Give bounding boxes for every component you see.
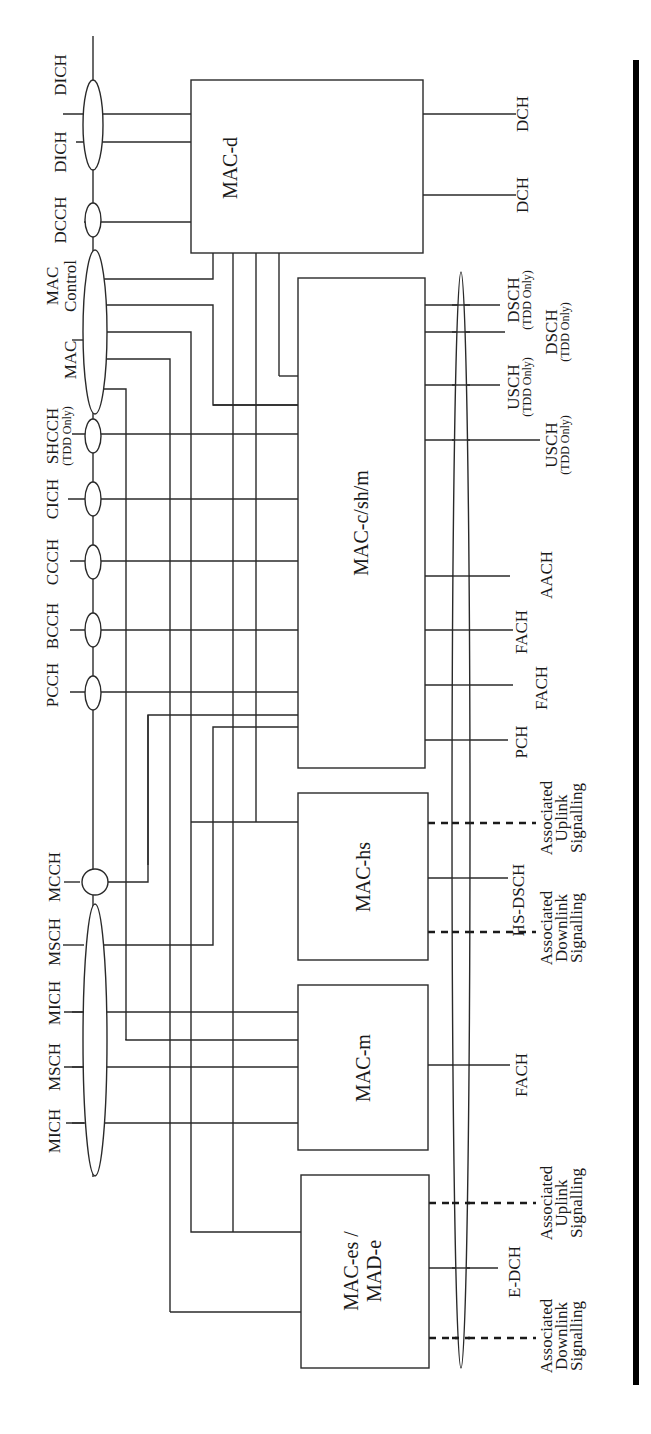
- ccch-label: CCCH: [43, 539, 62, 585]
- mac-m-label: MAC-m: [352, 1034, 374, 1102]
- cich-label: CICH: [43, 479, 62, 520]
- cich-ellipse: [85, 482, 101, 516]
- dich-multiplex-ellipse: [83, 80, 103, 170]
- mac-control-ellipse: [83, 250, 107, 414]
- pch-label: PCH: [512, 725, 531, 758]
- mac-architecture-diagram: MAC-d MAC-c/sh/m MAC-hs MAC-m MAC-es / M…: [0, 0, 651, 1434]
- e-dch-label: E-DCH: [505, 1246, 524, 1298]
- mac-c-label: MAC-c/sh/m: [350, 470, 372, 576]
- mich-msch-ellipse: [83, 904, 107, 1176]
- fach-label: FACH: [512, 1053, 531, 1097]
- aach-label: AACH: [537, 551, 556, 599]
- e-uplink-signalling-label-3: Signalling: [567, 1168, 586, 1238]
- pcch-ellipse: [85, 676, 101, 710]
- mac-d-label: MAC-d: [219, 137, 241, 199]
- logical-channel-labels: DICH DICH DCCH MAC Control MAC SHCCH (TD…: [43, 54, 80, 1153]
- mac-es-label: MAC-es /: [340, 1231, 362, 1311]
- dcch-ellipse: [85, 203, 101, 237]
- msch-label: MSCH: [45, 1043, 64, 1091]
- usch-tdd-only-label: (TDD Only): [558, 415, 572, 475]
- pcch-label: PCCH: [43, 663, 62, 707]
- dcch-label: DCCH: [51, 196, 70, 243]
- mich-label: MICH: [45, 1109, 64, 1153]
- dsch-tdd-only-label: (TDD Only): [520, 270, 534, 330]
- hs-uplink-signalling-label-3: Signalling: [567, 783, 586, 853]
- e-downlink-signalling-label-3: Signalling: [567, 1301, 586, 1371]
- bcch-ellipse: [85, 613, 101, 647]
- mad-e-label: MAD-e: [363, 1240, 385, 1302]
- msch-label: MSCH: [45, 918, 64, 966]
- mcch-circle: [82, 869, 108, 895]
- bcch-label: BCCH: [43, 603, 62, 649]
- dch-label: DCH: [513, 96, 532, 132]
- hs-dsch-label: HS-DSCH: [509, 864, 528, 937]
- mac-label: MAC: [61, 341, 80, 380]
- mcch-label: MCCH: [45, 852, 64, 902]
- hs-downlink-signalling-label-3: Signalling: [567, 893, 586, 963]
- mich-label: MICH: [45, 981, 64, 1025]
- usch-tdd-only-label: (TDD Only): [520, 357, 534, 417]
- shcch-ellipse: [85, 419, 101, 453]
- dsch-tdd-only-label: (TDD Only): [558, 302, 572, 362]
- ccch-ellipse: [85, 545, 101, 579]
- mac-control-sub-label: Control: [61, 260, 80, 312]
- dich-label: DICH: [51, 131, 70, 173]
- dich-label: DICH: [51, 54, 70, 96]
- shcch-tdd-only-label: (TDD Only): [60, 406, 74, 466]
- mac-hs-label: MAC-hs: [352, 842, 374, 912]
- mac-control-label: MAC: [43, 267, 62, 306]
- transport-channel-labels: DCH DCH DSCH (TDD Only) DSCH (TDD Only) …: [504, 96, 586, 1373]
- fach-label: FACH: [512, 610, 531, 654]
- fach-label: FACH: [532, 666, 551, 710]
- dch-label: DCH: [513, 177, 532, 213]
